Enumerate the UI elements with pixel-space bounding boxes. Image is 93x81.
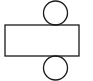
lateral-surface-rectangle	[5, 25, 79, 56]
cylinder-net-diagram	[0, 0, 93, 81]
bottom-circle-face	[44, 56, 68, 80]
top-circle-face	[44, 1, 68, 25]
